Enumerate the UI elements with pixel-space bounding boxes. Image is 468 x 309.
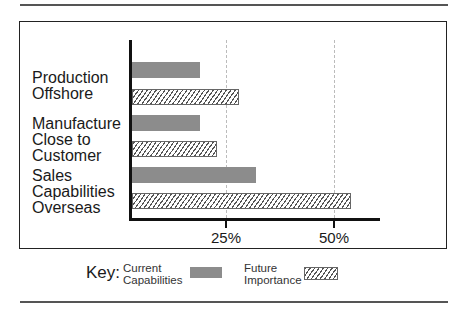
gridline-50 [334, 40, 335, 218]
bar-future [132, 89, 239, 105]
x-tick-label-25: 25% [211, 229, 241, 246]
top-rule [20, 4, 448, 6]
bar-current [132, 62, 200, 78]
x-tick-50 [333, 220, 335, 228]
legend-label-current: Current Capabilities [123, 262, 182, 286]
bottom-rule [20, 301, 448, 303]
legend-label-future: Future Importance [244, 262, 302, 286]
category-label: Manufacture Close to Customer [32, 116, 121, 164]
x-tick-label-50: 50% [319, 229, 349, 246]
legend-swatch-future [304, 267, 338, 280]
category-label: Sales Capabilities Overseas [32, 168, 115, 216]
bar-future [132, 193, 351, 209]
gridline-25 [226, 40, 227, 218]
x-axis [129, 218, 380, 221]
x-tick-25 [225, 220, 227, 228]
category-label: Production Offshore [32, 70, 109, 102]
bar-current [132, 167, 256, 183]
legend-title: Key: [86, 263, 120, 283]
bar-future [132, 141, 217, 157]
legend-swatch-current [190, 267, 222, 278]
bar-current [132, 115, 200, 131]
